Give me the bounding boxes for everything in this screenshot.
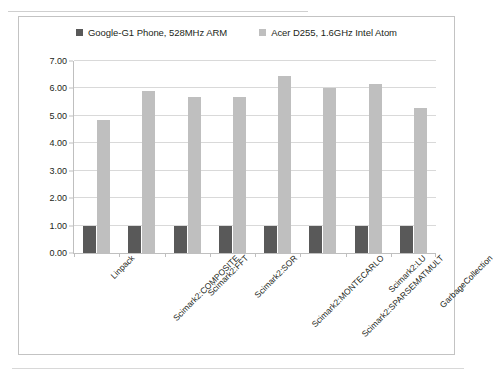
bars-layer [74, 61, 436, 253]
x-axis-labels: LinpackScimark2:COMPOSITEScimark2:FFTSci… [73, 253, 446, 363]
bar-series-1 [174, 226, 187, 253]
legend-swatch-icon-series-2 [259, 29, 266, 36]
bar-series-1 [219, 226, 232, 253]
chart-frame: Google-G1 Phone, 528MHz ARM Acer D255, 1… [18, 16, 455, 355]
bar-series-2 [233, 97, 246, 253]
legend-entry-series-2: Acer D255, 1.6GHz Intel Atom [259, 27, 397, 38]
bar-series-2 [414, 108, 427, 253]
x-axis-label: Linpack [108, 253, 136, 281]
bar-series-1 [355, 226, 368, 253]
bar-group [255, 61, 300, 253]
bar-series-2 [142, 91, 155, 253]
bar-group [165, 61, 210, 253]
bar-series-2 [323, 88, 336, 253]
bar-group [210, 61, 255, 253]
legend-entry-series-1: Google-G1 Phone, 528MHz ARM [76, 27, 227, 38]
x-axis-label: Scimark2:COMPOSITE [171, 253, 241, 323]
bar-group [74, 61, 119, 253]
bar-series-1 [83, 226, 96, 253]
y-axis-tick-label: 1.00 [49, 221, 67, 231]
bar-group [346, 61, 391, 253]
page-scan-artifact-top [8, 11, 308, 12]
y-axis-tick-label: 5.00 [49, 111, 67, 121]
bar-series-1 [128, 226, 141, 253]
y-axis-tick-label: 6.00 [49, 83, 67, 93]
page-scan-artifact-bottom [12, 368, 464, 369]
legend-label-series-2: Acer D255, 1.6GHz Intel Atom [271, 27, 397, 38]
bar-series-2 [369, 84, 382, 253]
bar-series-1 [400, 226, 413, 253]
bar-group [391, 61, 436, 253]
chart-legend: Google-G1 Phone, 528MHz ARM Acer D255, 1… [19, 22, 454, 42]
x-axis-label: GarbageCollection [438, 253, 495, 310]
y-axis-tick-label: 0.00 [49, 248, 67, 258]
bar-series-2 [188, 97, 201, 253]
bar-series-1 [264, 226, 277, 253]
plot-area [73, 61, 436, 254]
bar-series-1 [309, 226, 322, 253]
bar-group [119, 61, 164, 253]
y-axis-tick-label: 4.00 [49, 138, 67, 148]
legend-swatch-icon-series-1 [76, 29, 83, 36]
y-axis-tick-label: 3.00 [49, 166, 67, 176]
legend-label-series-1: Google-G1 Phone, 528MHz ARM [88, 27, 227, 38]
y-axis: 7.006.005.004.003.002.001.000.00 [41, 61, 73, 253]
plot-area-wrapper: 7.006.005.004.003.002.001.000.00 [41, 61, 436, 253]
y-axis-tick-label: 2.00 [49, 193, 67, 203]
y-axis-tick-label: 7.00 [49, 56, 67, 66]
bar-series-2 [278, 76, 291, 253]
bar-group [300, 61, 345, 253]
bar-series-2 [97, 120, 110, 253]
x-axis-label: Scimark2:SOR [252, 253, 299, 300]
